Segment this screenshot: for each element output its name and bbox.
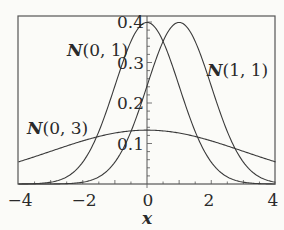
curve-label-n11-name: N xyxy=(206,60,224,80)
x-tick-label: −4 xyxy=(7,190,32,210)
x-tick-label: 2 xyxy=(204,190,215,210)
y-tick-label: 0.4 xyxy=(117,12,144,32)
y-tick-label: 0.2 xyxy=(117,93,144,113)
curve-label-n01: N(0, 1) xyxy=(66,40,128,60)
curve-label-n03: N(0, 3) xyxy=(26,118,88,138)
normal-distribution-chart: 0.4 0.3 0.2 0.1 −4 −2 0 2 4 x N(0, 1) N(… xyxy=(0,0,284,230)
curve-label-n03-name: N xyxy=(26,118,44,138)
y-tick-label: 0.1 xyxy=(117,134,144,154)
curve-label-n11-args: (1, 1) xyxy=(223,60,269,80)
curve-label-n03-args: (0, 3) xyxy=(43,118,89,138)
x-tick-labels: −4 −2 0 2 4 xyxy=(7,190,278,210)
x-tick-label: −2 xyxy=(71,190,96,210)
x-tick-label: 0 xyxy=(143,190,154,210)
curve-label-n01-name: N xyxy=(66,40,84,60)
x-tick-label: 4 xyxy=(268,190,279,210)
x-axis-label: x xyxy=(141,208,153,228)
curve-label-n11: N(1, 1) xyxy=(206,60,268,80)
curve-label-n01-args: (0, 1) xyxy=(83,40,129,60)
